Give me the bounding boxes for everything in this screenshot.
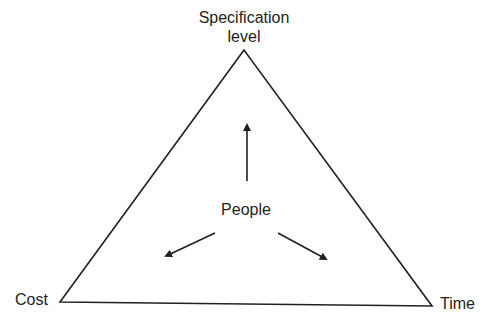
cost-label: Cost [15,290,48,309]
arrow-down-right-to-time [278,233,326,259]
triangle-outline [60,50,432,306]
specification-level-label: Specification level [184,8,304,46]
project-triangle-diagram [0,0,482,322]
arrow-down-left-to-cost [166,233,215,256]
specification-label-line1: Specification [184,8,304,27]
people-label: People [206,200,286,219]
time-label: Time [440,294,475,313]
specification-label-line2: level [184,27,304,46]
